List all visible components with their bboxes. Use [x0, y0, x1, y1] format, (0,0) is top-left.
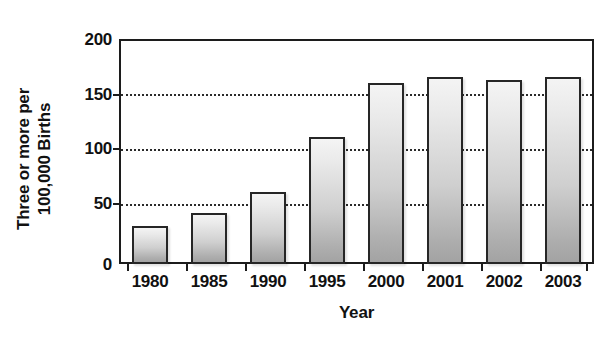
y-tick-label-150: 150 — [60, 85, 112, 105]
y-axis-tick-labels: 200 150 100 50 0 — [58, 0, 112, 345]
bar-2001 — [427, 77, 463, 264]
y-axis-title-line-1: Three or more per — [13, 88, 34, 230]
bar-1980 — [132, 226, 168, 264]
x-tickmark-1 — [186, 264, 188, 271]
bar-2003 — [545, 77, 581, 264]
x-tick-label-2003: 2003 — [525, 272, 601, 292]
x-axis-title: Year — [119, 303, 594, 323]
x-tickmark-8 — [586, 264, 588, 271]
bar-1985 — [191, 213, 227, 264]
y-axis-title: Three or more per 100,000 Births — [12, 39, 56, 279]
x-tickmark-7 — [540, 264, 542, 271]
bar-chart: Three or more per 100,000 Births 200 150… — [0, 0, 612, 345]
x-tickmark-0 — [127, 264, 129, 271]
y-tick-label-50: 50 — [60, 194, 112, 214]
x-tickmark-4 — [363, 264, 365, 271]
bar-1995 — [309, 137, 345, 264]
bar-2002 — [486, 80, 522, 265]
y-tick-label-200: 200 — [60, 30, 112, 50]
y-axis-title-line-2: 100,000 Births — [34, 103, 55, 216]
bar-1990 — [250, 192, 286, 264]
x-tickmark-3 — [304, 264, 306, 271]
x-tickmark-5 — [422, 264, 424, 271]
x-tickmark-6 — [481, 264, 483, 271]
y-tick-label-100: 100 — [60, 139, 112, 159]
bar-2000 — [368, 83, 404, 264]
x-tickmark-2 — [245, 264, 247, 271]
bars-layer — [119, 39, 594, 264]
y-tick-label-0: 0 — [60, 255, 112, 275]
